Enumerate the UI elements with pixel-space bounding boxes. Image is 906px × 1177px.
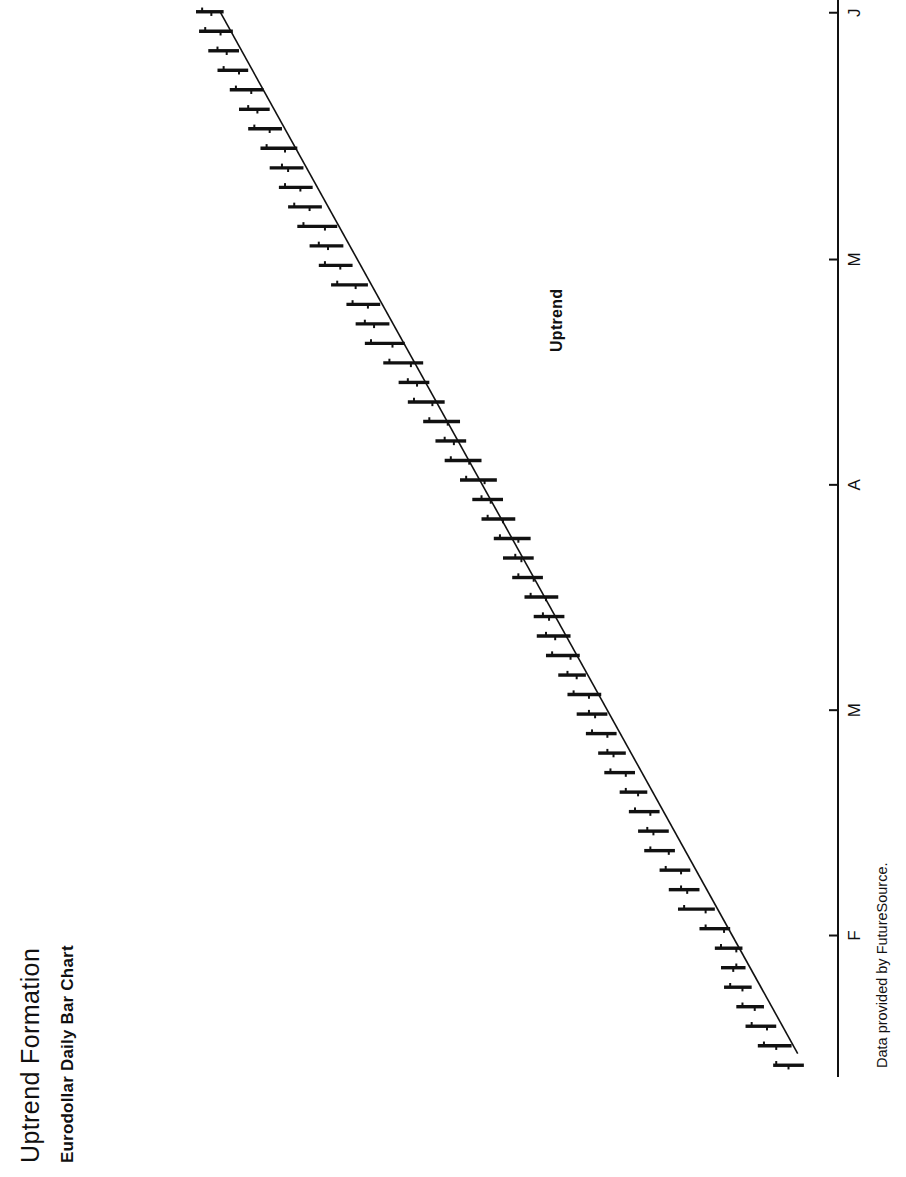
- chart-canvas: FMAMJ: [0, 0, 906, 1177]
- price-bar: [558, 671, 586, 679]
- price-bar: [482, 515, 516, 523]
- price-bar: [699, 924, 730, 932]
- price-bar: [217, 66, 248, 74]
- price-bar: [524, 593, 558, 601]
- price-bar: [534, 612, 565, 620]
- price-bar: [331, 281, 368, 289]
- axis-tick-label: J: [845, 8, 864, 17]
- price-bar: [356, 320, 390, 328]
- price-bar: [512, 573, 543, 581]
- ohlc-bar-chart-plot: FMAMJ: [0, 0, 906, 1177]
- price-bar: [660, 866, 691, 874]
- price-bar: [629, 807, 660, 815]
- price-bar: [472, 495, 503, 503]
- price-bar: [724, 983, 752, 991]
- price-bar: [721, 964, 746, 972]
- price-bar: [199, 27, 233, 35]
- price-bars-group: [196, 8, 804, 1070]
- price-bar: [279, 183, 313, 191]
- price-bar: [669, 885, 700, 893]
- price-bar: [270, 164, 304, 172]
- price-bar: [678, 905, 715, 913]
- price-bar: [746, 1022, 777, 1030]
- axis-tick-label: A: [845, 479, 864, 491]
- price-bar: [736, 1003, 764, 1011]
- price-bar: [408, 398, 445, 406]
- price-bar: [773, 1061, 804, 1069]
- price-bar: [577, 710, 608, 718]
- price-bar: [319, 261, 353, 269]
- price-bar: [248, 125, 282, 133]
- axis-tick-label: M: [845, 703, 864, 717]
- price-bar: [445, 456, 482, 464]
- time-axis: FMAMJ: [829, 0, 864, 1077]
- price-bar: [604, 768, 635, 776]
- price-bar: [288, 203, 322, 211]
- price-bar: [586, 729, 617, 737]
- price-bar: [260, 144, 297, 152]
- price-bar: [297, 222, 337, 230]
- price-bar: [365, 339, 405, 347]
- price-bar: [435, 437, 466, 445]
- chart-page: Uptrend Formation Eurodollar Daily Bar C…: [0, 0, 906, 1177]
- price-bar: [208, 47, 239, 55]
- price-bar: [239, 105, 270, 113]
- uptrend-trendline: [221, 13, 798, 1054]
- price-bar: [638, 827, 669, 835]
- price-bar: [230, 86, 264, 94]
- price-bar: [644, 846, 675, 854]
- price-bar: [503, 554, 534, 562]
- axis-tick-label: F: [845, 930, 864, 940]
- price-bar: [620, 788, 648, 796]
- price-bar: [196, 8, 224, 16]
- price-bar: [758, 1042, 792, 1050]
- price-bar: [598, 749, 626, 757]
- price-bar: [423, 417, 460, 425]
- price-bar: [346, 300, 380, 308]
- price-bar: [310, 242, 344, 250]
- axis-tick-label: M: [845, 252, 864, 266]
- trendline-segment: [221, 13, 798, 1054]
